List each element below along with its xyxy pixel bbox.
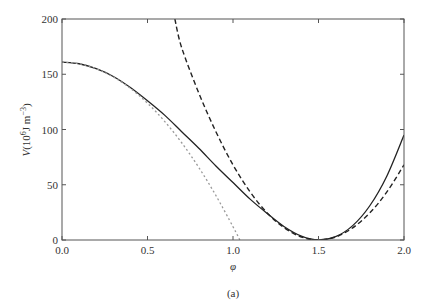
chart: 0.00.51.01.52.0 050100150200 φ V(106J m−…: [0, 0, 431, 308]
series-dotted-line: [62, 62, 240, 240]
x-tick-label: 1.5: [312, 244, 326, 256]
y-tick-label: 200: [42, 13, 59, 25]
x-tick-labels: 0.00.51.01.52.0: [55, 244, 411, 256]
series-solid-line: [62, 62, 404, 240]
x-tick-label: 1.0: [226, 244, 240, 256]
y-tick-label: 100: [42, 124, 59, 136]
y-axis-unit-exp2: −3: [19, 107, 28, 116]
figure-caption: (a): [227, 287, 240, 300]
y-tick-label: 0: [53, 234, 59, 246]
x-tick-label: 2.0: [397, 244, 411, 256]
x-axis-label: φ: [230, 260, 236, 272]
y-tick-label: 50: [47, 179, 59, 191]
y-axis-label: V(106J m−3): [19, 103, 33, 157]
plot-frame: [62, 19, 404, 240]
plot-series: [62, 19, 404, 240]
y-tick-label: 150: [42, 68, 59, 80]
axis-ticks: [62, 19, 404, 240]
x-tick-label: 0.5: [141, 244, 155, 256]
y-axis-unit-mid: J m: [20, 115, 32, 131]
y-axis-unit-end: ): [20, 103, 33, 107]
y-tick-labels: 050100150200: [42, 13, 59, 246]
y-axis-unit-prefix: (10: [20, 135, 33, 150]
svg-text:V(106J m−3): V(106J m−3): [19, 103, 33, 157]
